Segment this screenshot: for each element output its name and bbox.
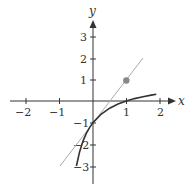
x-tick-label: 2 — [157, 106, 164, 119]
tangent-line — [60, 58, 143, 166]
y-axis-arrow-icon — [90, 20, 97, 28]
chart: x y −2 −1 1 2 3 2 1 −1 −2 −3 — [0, 0, 192, 196]
x-axis-label: x — [178, 94, 185, 108]
y-tick-label: 1 — [80, 74, 87, 87]
x-tick-label: −1 — [49, 106, 65, 119]
x-tick-label: 1 — [123, 106, 130, 119]
x-tick-label: −2 — [15, 106, 31, 119]
y-tick-label: −3 — [73, 161, 89, 174]
y-tick-label: 3 — [80, 31, 87, 44]
y-tick-label: 2 — [80, 53, 87, 66]
y-tick-label: −1 — [73, 117, 89, 130]
y-axis-label: y — [88, 4, 96, 18]
marked-point — [123, 77, 129, 83]
x-axis-arrow-icon — [168, 98, 176, 105]
function-curve — [76, 94, 156, 166]
